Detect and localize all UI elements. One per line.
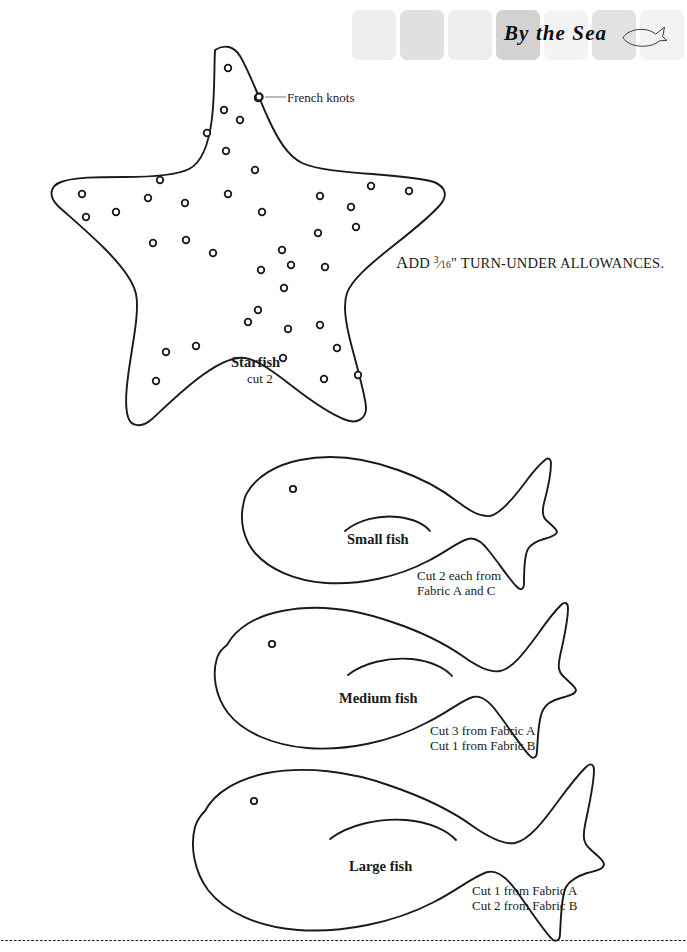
large-fish-eye	[251, 798, 257, 804]
pattern-sheet-page: By the Sea French knots Starfish cut 2 A…	[0, 0, 687, 952]
bottom-dotted-divider	[0, 939, 687, 942]
large-fish-outline	[0, 0, 687, 952]
large-fish-label: Large fish	[349, 858, 412, 875]
large-fish-cut-instruction-line-2: Cut 2 from Fabric B	[472, 898, 577, 914]
large-fish-cut-instruction-line-1: Cut 1 from Fabric A	[472, 883, 577, 899]
large-fish-fin-line	[330, 820, 456, 840]
